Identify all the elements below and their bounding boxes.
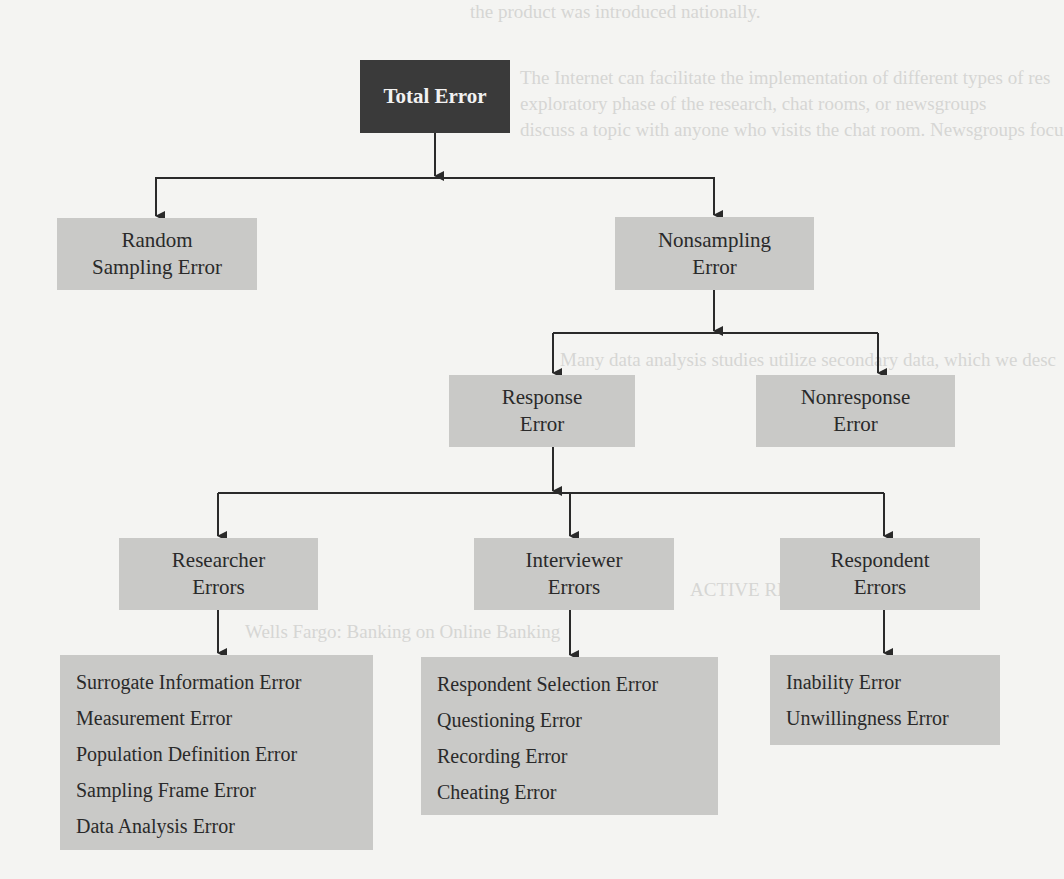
list-item: Cheating Error — [437, 777, 718, 813]
list-respondent-errors: Inability Error Unwillingness Error — [770, 655, 1000, 745]
node-label: Total Error — [383, 83, 486, 110]
node-label-line2: Errors — [192, 574, 244, 601]
list-researcher-errors: Surrogate Information Error Measurement … — [60, 655, 373, 850]
node-researcher-errors: Researcher Errors — [119, 538, 318, 610]
node-label-line1: Respondent — [830, 547, 929, 574]
list-item: Inability Error — [786, 667, 1000, 703]
list-interviewer-errors: Respondent Selection Error Questioning E… — [421, 657, 718, 815]
list-item: Data Analysis Error — [76, 811, 373, 847]
list-item: Questioning Error — [437, 705, 718, 741]
node-total-error: Total Error — [360, 60, 510, 133]
node-label-line1: Interviewer — [526, 547, 623, 574]
node-label-line2: Errors — [548, 574, 600, 601]
list-item: Measurement Error — [76, 703, 373, 739]
node-label-line1: Nonsampling — [658, 227, 771, 254]
node-label-line1: Random — [121, 227, 192, 254]
node-label-line1: Researcher — [172, 547, 265, 574]
node-label-line1: Nonresponse — [801, 384, 911, 411]
node-label-line2: Errors — [854, 574, 906, 601]
list-item: Surrogate Information Error — [76, 667, 373, 703]
node-label-line1: Response — [502, 384, 583, 411]
list-item: Unwillingness Error — [786, 703, 1000, 739]
node-label-line2: Sampling Error — [92, 254, 222, 281]
node-interviewer-errors: Interviewer Errors — [474, 538, 674, 610]
node-label-line2: Error — [692, 254, 736, 281]
node-label-line2: Error — [520, 411, 564, 438]
node-nonresponse-error: Nonresponse Error — [756, 375, 955, 447]
node-random-sampling-error: Random Sampling Error — [57, 218, 257, 290]
list-item: Sampling Frame Error — [76, 775, 373, 811]
node-nonsampling-error: Nonsampling Error — [615, 217, 814, 290]
node-response-error: Response Error — [449, 375, 635, 447]
list-item: Respondent Selection Error — [437, 669, 718, 705]
list-item: Recording Error — [437, 741, 718, 777]
list-item: Population Definition Error — [76, 739, 373, 775]
node-respondent-errors: Respondent Errors — [780, 538, 980, 610]
node-label-line2: Error — [833, 411, 877, 438]
